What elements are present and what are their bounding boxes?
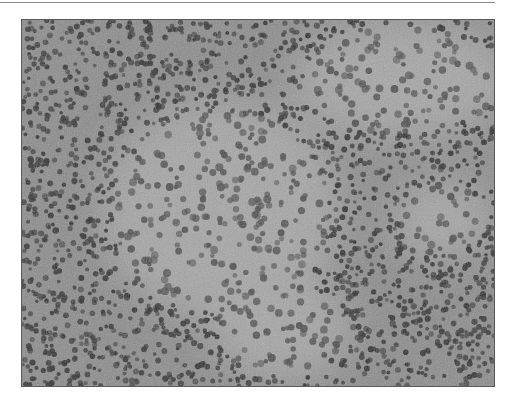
histology-micrograph — [22, 20, 494, 386]
tissue-texture — [22, 20, 494, 386]
top-rule-divider — [0, 2, 495, 3]
